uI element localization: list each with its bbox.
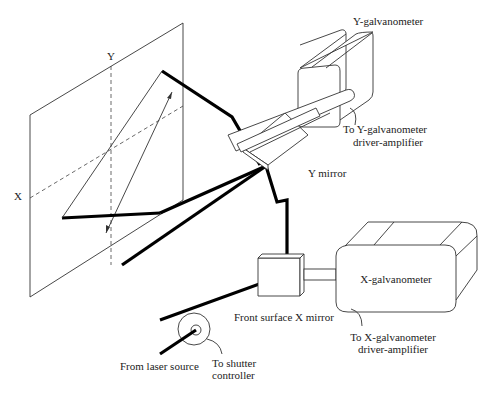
diagram-canvas: Y X Y-galvanometer To Y-galvanometer dri… (0, 0, 495, 396)
laser-beam (62, 71, 287, 320)
x-galvanometer-label: X-galvanometer (360, 273, 432, 285)
y-mirror (237, 108, 330, 170)
x-driver-label-1: To X-galvanometer (350, 331, 436, 343)
shutter-label-2: controller (212, 369, 255, 381)
x-mirror (258, 254, 336, 296)
y-galvanometer-label: Y-galvanometer (353, 15, 424, 27)
diagram-svg: Y X Y-galvanometer To Y-galvanometer dri… (0, 0, 495, 396)
x-axis-label: X (14, 190, 22, 202)
y-axis-label: Y (107, 50, 115, 62)
x-mirror-label: Front surface X mirror (234, 311, 334, 323)
laser-source-label: From laser source (120, 360, 199, 372)
shutter-leader (207, 339, 222, 354)
shutter-label-1: To shutter (212, 357, 256, 369)
x-galvanometer (336, 222, 477, 312)
y-driver-label-1: To Y-galvanometer (343, 123, 427, 135)
projection-screen (30, 23, 183, 297)
y-mirror-label: Y mirror (308, 167, 347, 179)
shutter (160, 313, 210, 354)
y-driver-label-2: driver-amplifier (353, 136, 423, 148)
x-driver-label-2: driver-amplifier (358, 343, 428, 355)
